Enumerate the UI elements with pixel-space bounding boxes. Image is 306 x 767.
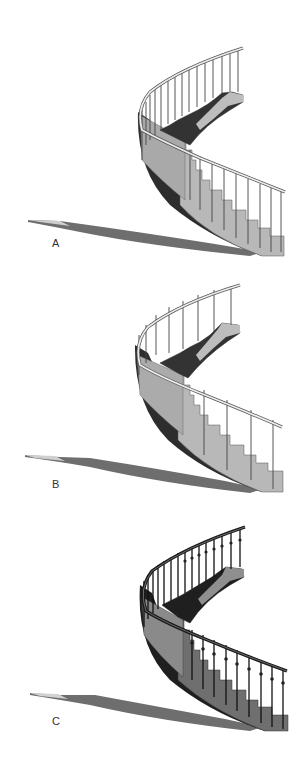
panel-label-c: C: [52, 715, 60, 727]
staircase-illustration-a: [0, 0, 306, 260]
lower-flight: [178, 375, 283, 492]
staircase-panel-b: B: [0, 245, 306, 505]
panel-label-b: B: [52, 478, 59, 490]
staircase-illustration-c: [0, 505, 306, 767]
staircase-illustration-b: [0, 245, 306, 505]
staircase-panel-a: A: [0, 0, 306, 260]
staircase-panel-c: C: [0, 505, 306, 767]
